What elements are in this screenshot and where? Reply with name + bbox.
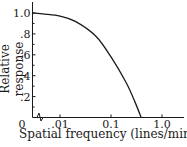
chart-area: .2.4.6.81.0 0.010.11.0 [0, 0, 187, 147]
response-curve [33, 13, 142, 118]
y-axis-label: Relative response [0, 19, 26, 119]
x-axis-label: Spatial frequency (lines/minute) [19, 127, 187, 141]
